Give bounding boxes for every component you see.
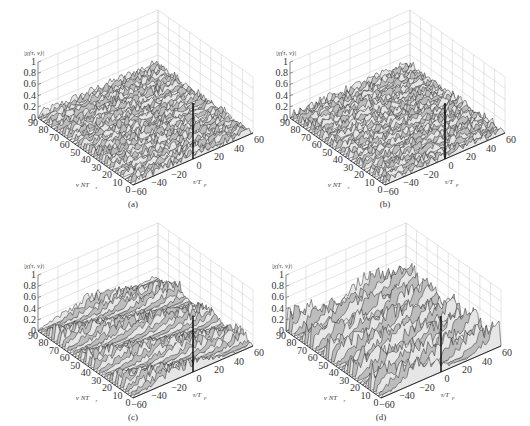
tau-tick-label: −60 [383, 186, 399, 197]
svg-text:p: p [203, 395, 207, 400]
tau-tick-label: 60 [506, 134, 516, 145]
z-axis-label: |χ(τ, ν)| [24, 49, 45, 57]
z-axis-label: |χ(τ, ν)| [24, 262, 45, 270]
nu-axis-label: ν NT [76, 181, 91, 189]
panel-caption: (c) [128, 412, 138, 422]
tau-tick-label: −60 [379, 399, 395, 410]
nu-axis-label: ν NT [76, 394, 91, 402]
tau-tick-label: 40 [234, 356, 244, 367]
z-tick-label: 0.4 [276, 90, 289, 101]
tau-tick-label: 20 [214, 151, 224, 162]
z-tick-label: 0.2 [24, 101, 37, 112]
nu-tick-label: 40 [333, 154, 343, 165]
tau-axis-label: τ/T [193, 178, 202, 186]
nu-tick-label: 0 [126, 184, 131, 195]
nu-tick-label: 90 [280, 117, 290, 128]
tau-tick-label: 40 [482, 356, 492, 367]
tau-tick-label: −40 [151, 390, 167, 401]
tau-tick-label: 20 [466, 151, 476, 162]
panel-b: 00.20.40.60.81|χ(τ, ν)|01020304050607080… [276, 10, 517, 209]
figure: 00.20.40.60.81|χ(τ, ν)|01020304050607080… [0, 0, 530, 426]
tau-tick-label: 40 [486, 143, 496, 154]
nu-tick-label: 10 [364, 177, 374, 188]
z-tick-label: 0.2 [24, 314, 37, 325]
tau-tick-label: −20 [171, 382, 187, 393]
z-tick-label: 0.6 [24, 291, 37, 302]
z-tick-label: 0.6 [276, 78, 289, 89]
nu-tick-label: 10 [112, 177, 122, 188]
nu-tick-label: 80 [39, 337, 49, 348]
tau-tick-label: 20 [214, 364, 224, 375]
nu-tick-label: 20 [354, 169, 364, 180]
tau-tick-label: 0 [197, 373, 202, 384]
svg-text:p: p [203, 182, 207, 187]
nu-tick-label: 40 [329, 367, 339, 378]
z-tick-label: 0.4 [24, 303, 37, 314]
nu-tick-label: 90 [28, 117, 38, 128]
svg-text:r: r [348, 185, 350, 190]
nu-tick-label: 0 [374, 397, 379, 408]
nu-tick-label: 20 [102, 169, 112, 180]
nu-tick-label: 90 [28, 330, 38, 341]
tau-tick-label: −20 [423, 169, 439, 180]
nu-tick-label: 70 [301, 132, 311, 143]
tau-axis-label: τ/T [445, 178, 454, 186]
nu-tick-label: 0 [378, 184, 383, 195]
nu-tick-label: 60 [312, 139, 322, 150]
nu-axis-label: ν NT [328, 181, 343, 189]
panel-caption: (a) [128, 199, 138, 209]
nu-tick-label: 60 [60, 352, 70, 363]
nu-tick-label: 20 [350, 382, 360, 393]
tau-tick-label: −20 [419, 382, 435, 393]
tau-tick-label: 0 [445, 373, 450, 384]
nu-tick-label: 70 [49, 345, 59, 356]
nu-tick-label: 30 [339, 375, 349, 386]
nu-tick-label: 60 [60, 139, 70, 150]
z-tick-label: 0.8 [276, 67, 289, 78]
nu-tick-label: 50 [70, 360, 80, 371]
tau-tick-label: −40 [403, 177, 419, 188]
tau-tick-label: 60 [502, 347, 512, 358]
z-tick-label: 0.8 [272, 280, 285, 291]
svg-text:r: r [96, 185, 98, 190]
surface [38, 61, 253, 185]
z-tick-label: 1 [279, 269, 284, 280]
tau-tick-label: 20 [462, 364, 472, 375]
tau-tick-label: 60 [254, 134, 264, 145]
z-tick-label: 0.6 [24, 78, 37, 89]
tau-tick-label: −40 [399, 390, 415, 401]
nu-tick-label: 30 [91, 375, 101, 386]
nu-tick-label: 90 [276, 330, 286, 341]
nu-tick-label: 0 [126, 397, 131, 408]
nu-tick-label: 80 [39, 124, 49, 135]
nu-tick-label: 40 [81, 154, 91, 165]
z-tick-label: 0.4 [24, 90, 37, 101]
nu-tick-label: 50 [322, 147, 332, 158]
tau-axis-label: τ/T [193, 391, 202, 399]
panel-caption: (d) [376, 412, 387, 422]
tau-axis-label: τ/T [441, 391, 450, 399]
tau-tick-label: 60 [254, 347, 264, 358]
z-tick-label: 0.8 [24, 67, 37, 78]
tau-tick-label: −20 [171, 169, 187, 180]
nu-tick-label: 20 [102, 382, 112, 393]
nu-tick-label: 50 [70, 147, 80, 158]
z-tick-label: 1 [31, 56, 36, 67]
nu-tick-label: 80 [287, 337, 297, 348]
nu-axis-label: ν NT [324, 394, 339, 402]
nu-tick-label: 10 [360, 390, 370, 401]
z-tick-label: 1 [283, 56, 288, 67]
tau-tick-label: −60 [131, 186, 147, 197]
z-tick-label: 0.8 [24, 280, 37, 291]
tau-tick-label: 40 [234, 143, 244, 154]
nu-tick-label: 60 [308, 352, 318, 363]
tau-tick-label: 0 [197, 160, 202, 171]
tau-tick-label: −60 [131, 399, 147, 410]
nu-tick-label: 30 [91, 162, 101, 173]
panel-d: 00.20.40.60.81|χ(τ, ν)|01020304050607080… [272, 223, 513, 422]
tau-tick-label: −40 [151, 177, 167, 188]
svg-text:r: r [96, 398, 98, 403]
z-tick-label: 0.2 [276, 101, 289, 112]
tau-tick-label: 0 [449, 160, 454, 171]
svg-text:p: p [455, 182, 459, 187]
